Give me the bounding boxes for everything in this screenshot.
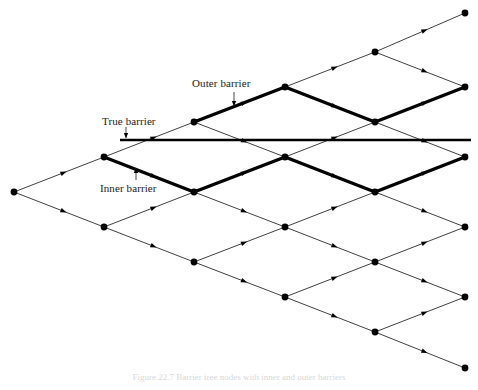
lattice-node [101, 154, 108, 161]
lattice-node [462, 154, 469, 161]
lattice-edge [285, 192, 375, 227]
lattice-edge [14, 192, 104, 227]
edge-arrowhead [60, 172, 67, 176]
inner-barrier-path [104, 157, 465, 192]
edge-arrowhead [421, 349, 428, 353]
edge-arrowhead [421, 242, 428, 246]
edge-arrowhead [331, 313, 338, 317]
edge-arrowhead [421, 68, 428, 72]
edge-arrowhead [331, 67, 338, 71]
lattice-edge [375, 227, 465, 262]
lattice-node [282, 224, 289, 231]
lattice-edge [375, 52, 465, 87]
lattice-edge [375, 13, 465, 52]
lattice-node [191, 119, 198, 126]
edge-arrowhead [150, 207, 157, 211]
edge-arrowhead [331, 243, 338, 247]
lattice-node [372, 49, 379, 56]
edge-arrowhead [331, 277, 338, 281]
lattice-node [462, 84, 469, 91]
outer-barrier-path [194, 87, 465, 122]
lattice-node [372, 119, 379, 126]
lattice-edge [194, 227, 285, 262]
lattice-node [462, 365, 469, 372]
annotation-arrow-group [126, 92, 234, 180]
lattice-node [11, 189, 18, 196]
lattice-node [372, 259, 379, 266]
lattice-edge [375, 192, 465, 227]
lattice-node [372, 329, 379, 336]
lattice-edge [285, 52, 375, 87]
lattice-edge-group [14, 13, 465, 368]
lattice-node [462, 224, 469, 231]
lattice-node [282, 294, 289, 301]
figure-caption: Figure 22.7 Barrier tree nodes with inne… [0, 372, 478, 382]
lattice-node [191, 259, 198, 266]
lattice-edge [14, 157, 104, 192]
edge-arrowhead [240, 208, 247, 212]
lattice-edge [194, 262, 285, 297]
lattice-edge [375, 332, 465, 368]
edge-arrowhead [240, 242, 247, 246]
outer-barrier-label: Outer barrier [192, 77, 250, 89]
inner-barrier-stroke [104, 157, 465, 192]
edge-arrowhead [421, 29, 428, 34]
lattice-node [282, 154, 289, 161]
lattice-node [462, 10, 469, 17]
lattice-edge [194, 192, 285, 227]
lattice-edge [285, 262, 375, 297]
figure-container: Outer barrier True barrier Inner barrier… [0, 0, 478, 390]
lattice-node [101, 224, 108, 231]
edge-arrowhead [421, 208, 428, 212]
lattice-edge [375, 262, 465, 297]
edge-arrowhead [240, 278, 247, 282]
lattice-edge [285, 227, 375, 262]
binomial-lattice-diagram [0, 0, 478, 390]
outer-barrier-stroke [194, 87, 465, 122]
edge-arrowhead [150, 243, 157, 247]
edge-arrowhead [421, 312, 428, 316]
true-barrier-label: True barrier [102, 115, 156, 127]
edge-arrowhead [60, 208, 67, 212]
lattice-node [372, 189, 379, 196]
lattice-edge [104, 227, 194, 262]
lattice-node-group [11, 10, 469, 372]
lattice-node [282, 84, 289, 91]
lattice-node [462, 294, 469, 301]
lattice-edge [375, 297, 465, 332]
lattice-node [191, 189, 198, 196]
inner-barrier-label: Inner barrier [100, 182, 157, 194]
lattice-edge [104, 192, 194, 227]
edge-arrowhead [331, 207, 338, 211]
lattice-edge [285, 297, 375, 332]
edge-arrowhead [421, 278, 428, 282]
